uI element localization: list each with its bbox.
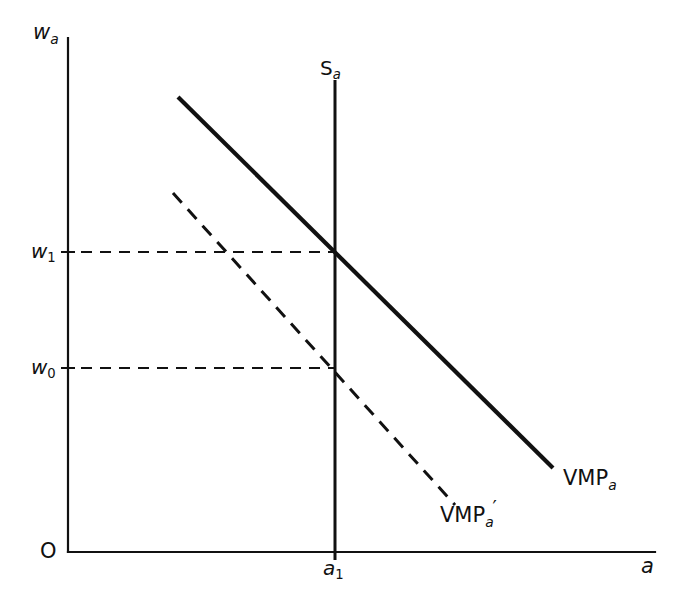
y-axis-label-sub: a bbox=[50, 31, 59, 47]
x-tick-label-a1-sub: 1 bbox=[335, 567, 343, 582]
supply-curve-label-sub: a bbox=[333, 67, 341, 82]
origin-label-text: O bbox=[40, 539, 57, 563]
vmp-prime-curve-label-prime: ′ bbox=[493, 496, 497, 518]
supply-curve-label: Sa bbox=[320, 58, 341, 78]
vmp-prime-curve-label: VMPa′ bbox=[440, 505, 498, 526]
vmp-curve-label-main: VMP bbox=[563, 466, 608, 490]
y-tick-label-w0-sub: 0 bbox=[47, 366, 55, 381]
y-tick-label-w0: w0 bbox=[31, 357, 56, 377]
origin-label: O bbox=[40, 541, 57, 562]
vmp-prime-curve-line bbox=[173, 193, 455, 505]
y-tick-label-w1-sub: 1 bbox=[47, 250, 55, 265]
x-tick-label-a1: a1 bbox=[323, 558, 344, 578]
vmp-prime-curve-label-main: VMP bbox=[440, 503, 485, 527]
x-axis-label: a bbox=[641, 556, 654, 577]
y-axis-label: wa bbox=[33, 22, 59, 43]
x-tick-label-a1-main: a bbox=[323, 556, 335, 580]
y-tick-label-w1: w1 bbox=[31, 241, 56, 261]
vmp-curve-line bbox=[178, 97, 553, 468]
y-tick-label-w0-main: w bbox=[31, 355, 47, 379]
vmp-curve-label: VMPa bbox=[563, 468, 617, 489]
diagram-canvas bbox=[0, 0, 687, 609]
vmp-curve-label-sub: a bbox=[608, 477, 617, 493]
y-axis-label-main: w bbox=[33, 20, 50, 44]
supply-curve-label-main: S bbox=[320, 56, 333, 80]
y-tick-label-w1-main: w bbox=[31, 239, 47, 263]
x-axis-label-main: a bbox=[641, 554, 654, 578]
economics-diagram-figure: wa a O w1 w0 a1 Sa VMPa VMPa′ bbox=[0, 0, 687, 609]
